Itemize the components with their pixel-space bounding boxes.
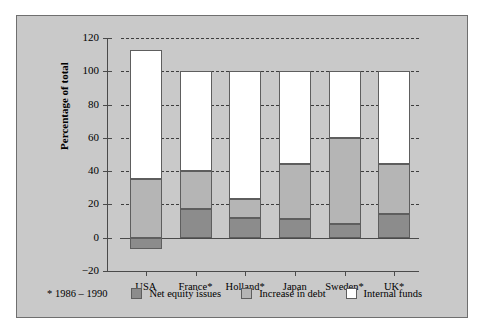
bar-segment-net-equity-issues [279,219,311,237]
y-axis-label: Percentage of total [58,26,70,186]
bar-segment-net-equity-issues [378,214,410,237]
bar-segment-internal-funds [329,71,361,138]
bar-segment-internal-funds [130,50,162,180]
legend-swatch-net-equity-issues [131,288,142,299]
gridline-120 [121,38,419,39]
y-tick-label-20: 20 [71,198,99,209]
gridline-80 [121,105,419,106]
y-tick-mark-60 [103,138,112,139]
legend-label-increase-in-debt: Increase in debt [259,288,325,299]
y-tick-label-120: 120 [71,32,99,43]
footnote: * 1986 – 1990 [47,288,107,299]
y-tick-label-0: 0 [71,232,99,243]
y-axis-line [107,38,108,271]
legend-item-1: Increase in debt [241,288,325,299]
bar-usa [130,38,162,271]
legend-item-2: Internal funds [346,288,423,299]
legend-item-0: Net equity issues [131,288,221,299]
bar-segment-net-equity-issues [329,224,361,237]
bar-segment-net-equity-issues [130,238,162,250]
legend-label-internal-funds: Internal funds [364,288,423,299]
y-tick-label-60: 60 [71,132,99,143]
gridline-60 [121,138,419,139]
gridline-20 [121,204,419,205]
y-tick-mark-80 [103,105,112,106]
bar-segment-internal-funds [279,71,311,164]
zero-line [120,238,419,239]
bar-france [180,38,212,271]
bar-holland [229,38,261,271]
y-tick-label-80: 80 [71,99,99,110]
bar-segment-increase-in-debt [329,138,361,225]
y-tick-mark-120 [103,38,112,39]
bar-sweden [329,38,361,271]
y-tick-mark-40 [103,171,112,172]
chart-panel: Percentage of total 120100806040200−20 U… [16,15,468,318]
y-tick-mark-100 [103,71,112,72]
y-tick-label-100: 100 [71,65,99,76]
chart-legend: * 1986 – 1990 Net equity issues Increase… [47,288,442,299]
gridline-100 [121,71,419,72]
y-tick-mark-20 [103,204,112,205]
y-tick-label--20: −20 [71,265,99,276]
bar-japan [279,38,311,271]
x-axis-line [107,271,419,272]
legend-swatch-increase-in-debt [241,288,252,299]
chart-screenshot: Percentage of total 120100806040200−20 U… [0,0,488,330]
bar-segment-increase-in-debt [130,179,162,237]
gridline-40 [121,171,419,172]
y-tick-label-40: 40 [71,165,99,176]
bar-segment-internal-funds [229,71,261,199]
bar-segment-net-equity-issues [229,218,261,238]
bar-segment-internal-funds [378,71,410,164]
y-tick-mark-0 [103,238,112,239]
bar-segment-increase-in-debt [378,164,410,214]
bar-segment-increase-in-debt [180,171,212,209]
bar-uk [378,38,410,271]
bar-segment-increase-in-debt [279,164,311,219]
bar-segment-internal-funds [180,71,212,171]
legend-swatch-internal-funds [346,288,357,299]
bar-segment-increase-in-debt [229,199,261,217]
bar-segment-net-equity-issues [180,209,212,237]
legend-label-net-equity-issues: Net equity issues [149,288,221,299]
plot-area [121,38,419,271]
